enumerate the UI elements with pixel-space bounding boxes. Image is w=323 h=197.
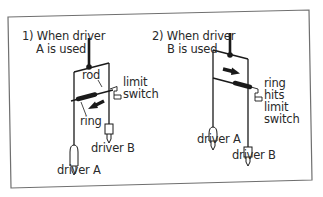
label-driver-a: driver A [57,164,101,177]
arrow-right-icon [231,68,240,76]
label-driver-b: driver B [232,149,276,162]
panel-2-title-line2: B is used [167,43,217,56]
label-driver-a: driver A [197,133,241,146]
driver-b-icon [105,124,113,134]
limit-switch-icon [110,87,121,100]
label-driver-b: driver B [91,142,135,155]
panel-1-title-line2: A is used [36,43,86,56]
label-rod: rod [82,69,100,82]
ring [78,95,95,100]
diagram-stage: 1) When driver A is used rod limit switc… [0,0,323,197]
label-limit-switch-line2: switch [123,88,159,101]
label-ring: ring [80,115,102,128]
limit-switch-icon [251,87,262,101]
label-ring-hits-line4: switch [264,113,300,126]
arrow-left-icon [88,102,98,110]
